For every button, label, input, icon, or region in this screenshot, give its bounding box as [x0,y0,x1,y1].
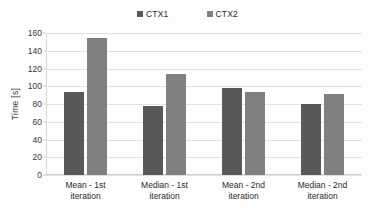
bar-group [204,33,283,175]
x-axis-label-line2: iteration [46,191,125,202]
x-axis-label-line1: Mean - 1st [65,180,105,190]
y-tick-label: 0 [37,170,42,180]
bar-chart: CTX1 CTX2 Time [s] 160140120100806040200… [0,0,375,217]
plot-area: 160140120100806040200 [46,33,362,175]
x-axis-label-line2: iteration [204,191,283,202]
x-axis-label-line1: Median - 1st [141,180,188,190]
bar-ctx2-0[interactable] [87,38,107,175]
x-axis-label-line2: iteration [283,191,362,202]
y-tick-label: 120 [28,64,42,74]
bar-ctx1-1[interactable] [143,106,163,175]
bar-ctx1-0[interactable] [64,92,84,175]
y-tick-label: 20 [33,152,42,162]
x-axis-label: Median - 2nditeration [283,180,362,202]
legend-swatch-ctx2 [207,11,213,17]
legend-entry-ctx2[interactable]: CTX2 [207,9,239,19]
y-tick-label: 40 [33,135,42,145]
x-axis-label-line2: iteration [125,191,204,202]
x-axis-label-line1: Mean - 2nd [222,180,265,190]
bar-ctx2-2[interactable] [245,92,265,175]
bar-group [125,33,204,175]
chart-legend: CTX1 CTX2 [0,6,375,22]
legend-swatch-ctx1 [137,11,143,17]
gridline [46,175,362,176]
y-tick-label: 100 [28,81,42,91]
x-axis-labels: Mean - 1stiterationMedian - 1stiteration… [46,180,362,202]
bar-ctx1-3[interactable] [301,104,321,175]
y-axis-title: Time [s] [8,33,22,175]
legend-label-ctx2: CTX2 [216,9,239,19]
x-axis-label-line1: Median - 2nd [298,180,348,190]
bar-ctx2-1[interactable] [166,74,186,175]
bar-ctx1-2[interactable] [222,88,242,175]
x-axis-label: Median - 1stiteration [125,180,204,202]
legend-entry-ctx1[interactable]: CTX1 [137,9,169,19]
bar-group [283,33,362,175]
y-tick-label: 60 [33,117,42,127]
bar-group [46,33,125,175]
y-axis-title-text: Time [s] [10,88,20,120]
bar-ctx2-3[interactable] [324,94,344,175]
legend-label-ctx1: CTX1 [146,9,169,19]
bar-groups [46,33,362,175]
y-tick-label: 140 [28,46,42,56]
x-axis-label: Mean - 1stiteration [46,180,125,202]
x-axis-label: Mean - 2nditeration [204,180,283,202]
y-tick-label: 160 [28,28,42,38]
y-tick-label: 80 [33,99,42,109]
